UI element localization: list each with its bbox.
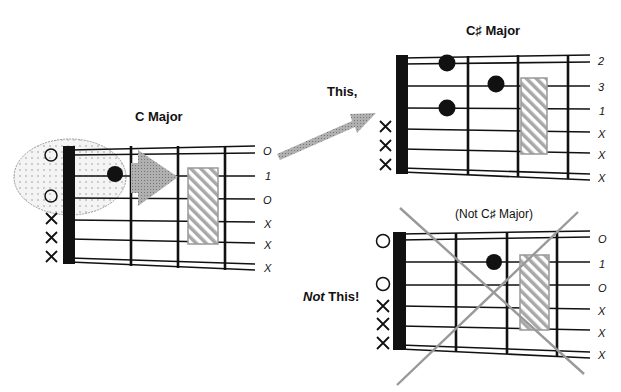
svg-text:1: 1 (265, 170, 271, 182)
svg-text:O: O (598, 233, 607, 245)
c-sharp-major-chord-diagram: C♯ Major 2 3 1 (380, 23, 606, 184)
frets (468, 55, 568, 179)
svg-text:O: O (263, 194, 272, 206)
c-major-chord-diagram: C Major (14, 109, 272, 274)
svg-text:X: X (597, 305, 606, 317)
muted-string-markers (46, 213, 57, 262)
finger-dot (486, 254, 502, 270)
nut (393, 232, 406, 350)
c-major-title: C Major (135, 109, 183, 124)
finger-dot (488, 76, 505, 93)
svg-text:2: 2 (597, 55, 604, 67)
svg-text:3: 3 (598, 81, 605, 93)
hatched-region (521, 78, 547, 154)
svg-text:X: X (263, 239, 272, 251)
svg-text:1: 1 (599, 105, 605, 117)
this-caption: This, (327, 84, 357, 99)
not-c-sharp-major-chord-diagram: (Not C♯ Major) Not This! (303, 207, 607, 385)
finger-dot (107, 166, 123, 182)
svg-text:X: X (597, 149, 606, 161)
muted-string-markers (377, 300, 389, 349)
c-sharp-major-title: C♯ Major (466, 23, 520, 38)
nut (396, 55, 408, 174)
svg-text:X: X (597, 172, 606, 184)
nut (63, 146, 75, 264)
string-labels: 2 3 1 X X X (597, 55, 606, 184)
muted-string-markers (380, 121, 391, 170)
svg-text:O: O (263, 145, 272, 157)
svg-text:1: 1 (599, 258, 605, 270)
svg-text:X: X (597, 349, 606, 361)
finger-dot (439, 100, 456, 117)
svg-text:O: O (598, 282, 607, 294)
finger-dot (439, 55, 456, 72)
hatched-region (188, 168, 218, 244)
open-string-marker (377, 278, 390, 291)
not-this-caption: Not This! (303, 289, 359, 304)
svg-text:X: X (263, 218, 272, 230)
string-labels: O 1 O X X X (263, 145, 272, 274)
svg-text:X: X (263, 262, 272, 274)
string-labels: O 1 O X X X (597, 233, 607, 361)
not-c-sharp-major-title: (Not C♯ Major) (455, 207, 533, 221)
svg-text:X: X (597, 327, 606, 339)
strings (402, 55, 590, 180)
chord-comparison-diagram: C Major (0, 0, 621, 392)
connector-arrow-icon (277, 113, 376, 160)
right-arrow-icon (131, 150, 178, 206)
svg-text:X: X (597, 128, 606, 140)
open-string-marker (377, 235, 390, 248)
